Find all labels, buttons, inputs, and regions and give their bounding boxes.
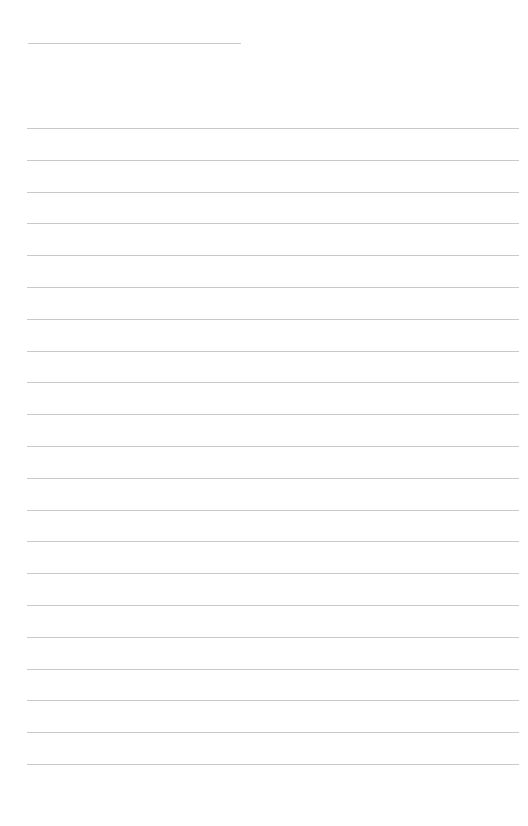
ruled-line xyxy=(27,446,519,447)
ruled-line xyxy=(27,573,519,574)
ruled-line-row[interactable] xyxy=(27,414,519,415)
ruled-line xyxy=(27,382,519,383)
ruled-line xyxy=(27,510,519,511)
ruled-line xyxy=(27,319,519,320)
ruled-line xyxy=(27,541,519,542)
ruled-line-row[interactable] xyxy=(27,255,519,256)
ruled-line xyxy=(27,478,519,479)
ruled-line xyxy=(27,287,519,288)
ruled-line-row[interactable] xyxy=(27,223,519,224)
ruled-line xyxy=(27,764,519,765)
ruled-line-row[interactable] xyxy=(27,510,519,511)
ruled-line-row[interactable] xyxy=(27,573,519,574)
ruled-line-row[interactable] xyxy=(27,541,519,542)
ruled-line xyxy=(27,700,519,701)
ruled-line xyxy=(27,192,519,193)
ruled-line-row[interactable] xyxy=(27,287,519,288)
ruled-line-row[interactable] xyxy=(27,351,519,352)
ruled-line-row[interactable] xyxy=(27,669,519,670)
ruled-line-row[interactable] xyxy=(27,764,519,765)
ruled-line xyxy=(27,160,519,161)
note-page xyxy=(0,0,528,826)
ruled-line xyxy=(27,732,519,733)
ruled-line xyxy=(27,128,519,129)
ruled-line-row[interactable] xyxy=(27,319,519,320)
ruled-line xyxy=(27,605,519,606)
ruled-line xyxy=(27,669,519,670)
ruled-line xyxy=(27,255,519,256)
ruled-line xyxy=(27,414,519,415)
ruled-line-row[interactable] xyxy=(27,446,519,447)
ruled-line-row[interactable] xyxy=(27,605,519,606)
ruled-line-row[interactable] xyxy=(27,128,519,129)
ruled-line-row[interactable] xyxy=(27,478,519,479)
ruled-line-row[interactable] xyxy=(27,192,519,193)
ruled-line xyxy=(27,637,519,638)
ruled-line-row[interactable] xyxy=(27,160,519,161)
ruled-line xyxy=(27,223,519,224)
ruled-lines-area xyxy=(0,0,528,826)
ruled-line-row[interactable] xyxy=(27,732,519,733)
ruled-line-row[interactable] xyxy=(27,700,519,701)
ruled-line-row[interactable] xyxy=(27,382,519,383)
ruled-line-row[interactable] xyxy=(27,637,519,638)
ruled-line xyxy=(27,351,519,352)
